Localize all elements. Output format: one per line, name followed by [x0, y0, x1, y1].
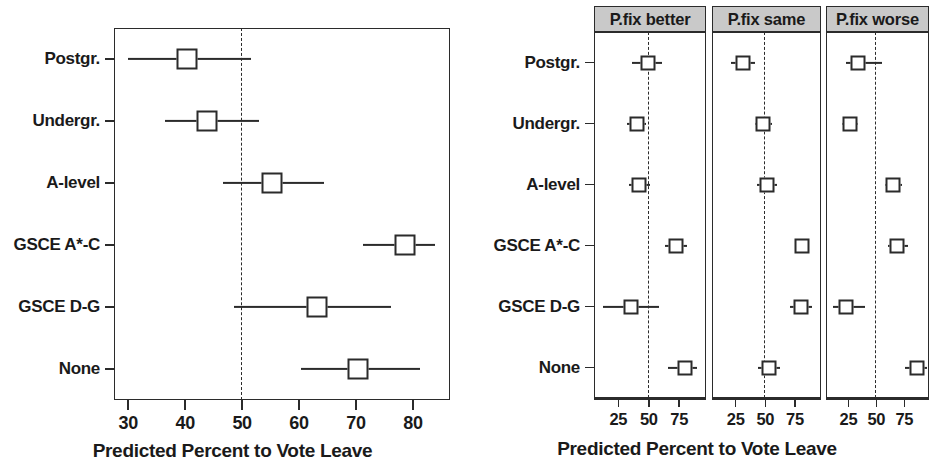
facet-x-tick-label: 25 — [840, 410, 858, 429]
x-axis-tick-label: 50 — [232, 413, 251, 434]
facet-y-tick — [585, 123, 594, 125]
x-axis-tick-label: 80 — [403, 413, 422, 434]
facet-frame-pfix-worse — [826, 32, 929, 398]
x-axis-tick — [355, 400, 357, 410]
x-axis-tick-label: 30 — [119, 413, 138, 434]
facet-y-axis-label-gsce-d-g: GSCE D-G — [465, 297, 580, 317]
facet-x-tick-label: 50 — [867, 410, 885, 429]
facet-axis-baseline — [594, 398, 706, 400]
facet-x-tick-label: 75 — [670, 410, 688, 429]
facet-reference-line-50-pfix-better — [648, 32, 649, 398]
forest-plot-figure: Postgr.Undergr.A-levelGSCE A*-CGSCE D-GN… — [0, 0, 929, 468]
y-axis-label-a-level: A-level — [0, 173, 100, 193]
facet-point-marker — [629, 116, 644, 131]
facet-point-marker — [668, 238, 683, 253]
x-axis-tick — [184, 400, 186, 410]
facet-strip-pfix-better: P.fix better — [594, 6, 706, 32]
point-estimate-marker — [307, 297, 328, 318]
right-x-axis-title: Predicted Percent to Vote Leave — [465, 438, 929, 460]
facet-point-marker — [851, 55, 866, 70]
facet-y-axis-label-gsce-a-c: GSCE A*-C — [465, 236, 580, 256]
facet-axis-baseline — [826, 398, 929, 400]
facet-y-tick — [585, 367, 594, 369]
facet-point-marker — [623, 299, 638, 314]
facet-strip-pfix-same: P.fix same — [712, 6, 821, 32]
facet-y-tick — [585, 306, 594, 308]
point-estimate-marker — [197, 111, 218, 132]
x-axis-tick-label: 40 — [175, 413, 194, 434]
facet-point-marker — [735, 55, 750, 70]
facet-point-marker — [795, 238, 810, 253]
facet-point-marker — [886, 177, 901, 192]
facet-point-marker — [839, 299, 854, 314]
y-axis-tick — [105, 58, 114, 60]
x-axis-tick — [127, 400, 129, 410]
facet-x-tick-label: 75 — [895, 410, 913, 429]
right-chart-panel: P.fix better255075P.fix same255075P.fix … — [465, 0, 929, 468]
point-estimate-marker — [347, 359, 368, 380]
facet-frame-pfix-better — [594, 32, 706, 398]
x-axis-tick-label: 60 — [289, 413, 308, 434]
facet-y-tick — [585, 245, 594, 247]
facet-reference-line-50-pfix-worse — [875, 32, 876, 398]
y-axis-tick — [105, 120, 114, 122]
facet-y-axis-label-postgr-: Postgr. — [465, 53, 580, 73]
left-chart-panel: Postgr.Undergr.A-levelGSCE A*-CGSCE D-GN… — [0, 0, 465, 468]
y-axis-tick — [105, 182, 114, 184]
facet-x-tick-label: 75 — [786, 410, 804, 429]
x-axis-tick-label: 70 — [346, 413, 365, 434]
facet-x-tick-label: 50 — [756, 410, 774, 429]
facet-x-tick-label: 50 — [640, 410, 658, 429]
facet-y-tick — [585, 62, 594, 64]
facet-point-marker — [793, 299, 808, 314]
y-axis-label-gsce-d-g: GSCE D-G — [0, 297, 100, 317]
y-axis-tick — [105, 306, 114, 308]
facet-point-marker — [842, 116, 857, 131]
facet-frame-pfix-same — [712, 32, 821, 398]
facet-point-marker — [632, 177, 647, 192]
facet-point-marker — [755, 116, 770, 131]
x-axis-tick — [298, 400, 300, 410]
y-axis-label-none: None — [0, 359, 100, 379]
point-estimate-marker — [176, 49, 197, 70]
facet-y-axis-label-none: None — [465, 358, 580, 378]
x-axis-tick — [241, 400, 243, 410]
point-estimate-marker — [262, 173, 283, 194]
facet-axis-baseline — [712, 398, 821, 400]
facet-point-marker — [640, 55, 655, 70]
facet-x-tick-label: 25 — [727, 410, 745, 429]
y-axis-label-postgr-: Postgr. — [0, 49, 100, 69]
y-axis-label-gsce-a-c: GSCE A*-C — [0, 235, 100, 255]
facet-point-marker — [761, 360, 776, 375]
facet-reference-line-50-pfix-same — [764, 32, 765, 398]
facet-strip-pfix-worse: P.fix worse — [826, 6, 929, 32]
facet-point-marker — [759, 177, 774, 192]
point-estimate-marker — [395, 235, 416, 256]
reference-line-50 — [241, 28, 242, 400]
facet-point-marker — [678, 360, 693, 375]
y-axis-tick — [105, 244, 114, 246]
facet-y-axis-label-undergr-: Undergr. — [465, 114, 580, 134]
y-axis-tick — [105, 368, 114, 370]
facet-y-tick — [585, 184, 594, 186]
y-axis-label-undergr-: Undergr. — [0, 111, 100, 131]
facet-point-marker — [889, 238, 904, 253]
left-plot-frame — [114, 28, 450, 400]
facet-x-tick-label: 25 — [609, 410, 627, 429]
facet-point-marker — [909, 360, 924, 375]
left-x-axis-title: Predicted Percent to Vote Leave — [0, 440, 465, 462]
x-axis-tick — [412, 400, 414, 410]
facet-y-axis-label-a-level: A-level — [465, 175, 580, 195]
